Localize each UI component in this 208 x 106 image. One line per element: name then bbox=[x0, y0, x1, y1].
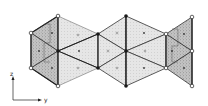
node-open bbox=[164, 66, 168, 70]
node-open bbox=[56, 14, 60, 18]
node-open bbox=[190, 15, 194, 19]
node-filled bbox=[56, 49, 60, 53]
z-axis-label: z bbox=[10, 70, 13, 77]
node-filled bbox=[124, 84, 128, 88]
node-open bbox=[190, 84, 194, 88]
structure-diagram: z y bbox=[0, 0, 208, 106]
node-filled bbox=[96, 32, 100, 36]
node-open bbox=[190, 49, 194, 53]
node-filled bbox=[96, 66, 100, 70]
node-open bbox=[56, 84, 60, 88]
y-axis-arrow-icon bbox=[38, 99, 42, 102]
node-open bbox=[29, 66, 33, 70]
node-open bbox=[164, 32, 168, 36]
node-filled bbox=[124, 14, 128, 18]
node-open bbox=[29, 31, 33, 35]
y-axis-label: y bbox=[44, 96, 48, 104]
node-filled bbox=[124, 49, 128, 53]
